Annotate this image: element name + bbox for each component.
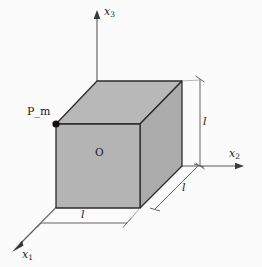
x2-axis-arrowhead: [235, 163, 244, 170]
dimension-label-x1: l: [81, 209, 85, 220]
figure-canvas: [0, 0, 262, 267]
dimension-label-x3: l: [203, 116, 207, 127]
x2-axis-label: x2: [229, 148, 240, 159]
x3-axis-label: x3: [104, 6, 115, 17]
cube-front-face: [56, 124, 140, 208]
x3-axis-arrowhead: [94, 10, 101, 19]
dim-leader-vertical-top: [182, 80, 200, 81]
point-pm-marker: [52, 120, 59, 127]
dim-leader-bottom-left: [41, 208, 56, 223]
cube-body: [56, 81, 182, 208]
dimension-label-x2: l: [182, 182, 186, 193]
origin-label: O: [95, 147, 104, 158]
x1-axis-label: x1: [22, 249, 33, 260]
dim-leader-bottom-right: [127, 208, 140, 223]
point-pm-label: P_m: [27, 106, 51, 117]
cube-coordinate-figure: x3 x2 x1 O P_m l l l: [0, 0, 262, 267]
